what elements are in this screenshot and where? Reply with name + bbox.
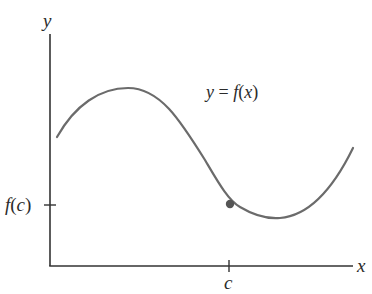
y-tick-label-fc: f(c) (5, 194, 31, 216)
function-curve (57, 88, 353, 218)
y-axis-label: y (41, 10, 52, 31)
x-tick-label-c: c (224, 272, 233, 293)
curve-label: y = f(x) (204, 82, 258, 103)
x-axis-label: x (356, 255, 366, 276)
point-c-fc (226, 200, 234, 208)
function-graph: y x y = f(x) f(c) c (0, 0, 372, 294)
